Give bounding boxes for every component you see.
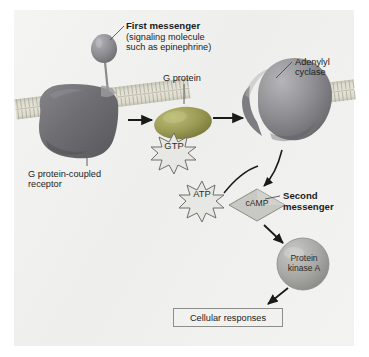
ligand-first-messenger: [91, 34, 117, 92]
label-second-messenger: Second messenger: [283, 191, 334, 212]
label-adenylyl-cyclase: Adenylyl cyclase: [295, 57, 330, 78]
label-first-messenger: First messenger: [126, 21, 200, 32]
label-g-protein: G protein: [163, 73, 201, 83]
cellular-responses-box: Cellular responses: [173, 308, 283, 327]
label-camp: cAMP: [235, 198, 279, 208]
label-g-protein-coupled-receptor: G protein-coupled receptor: [28, 169, 101, 190]
label-atp: ATP: [184, 188, 220, 199]
label-gtp: GTP: [156, 140, 192, 151]
label-protein-kinase-a: Protein kinase A: [276, 253, 332, 273]
g-protein-coupled-receptor: [39, 84, 118, 158]
label-first-messenger-detail: (signaling molecule such as epinephrine): [126, 32, 211, 53]
g-protein: [152, 104, 213, 142]
signaling-pathway-figure: First messenger (signaling molecule such…: [0, 0, 369, 357]
